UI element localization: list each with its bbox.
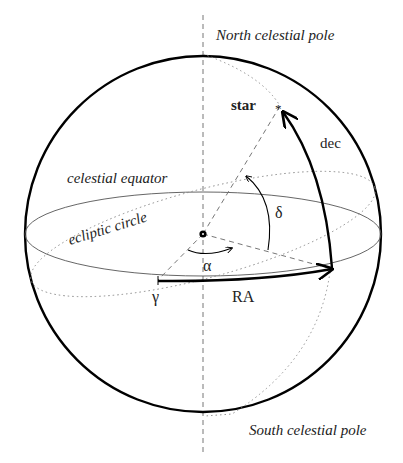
- alpha-label: α: [203, 257, 212, 274]
- star-meridian-lower: [205, 272, 330, 416]
- star-marker-icon: *: [275, 101, 282, 116]
- ra-label: RA: [232, 288, 255, 305]
- south-pole-label: South celestial pole: [249, 422, 367, 438]
- gamma-label: γ: [151, 288, 159, 306]
- celestial-sphere-diagram: * North celestial pole South celestial p…: [0, 0, 403, 463]
- alpha-angle-arc: [188, 248, 232, 254]
- delta-angle-arc: [246, 176, 270, 250]
- delta-label: δ: [275, 204, 283, 221]
- center-to-gamma-line: [158, 234, 203, 280]
- earth-center-inner: [202, 233, 204, 235]
- north-pole-label: North celestial pole: [215, 27, 335, 43]
- dec-label: dec: [320, 135, 341, 151]
- star-label: star: [231, 97, 256, 113]
- ecliptic-circle-label: ecliptic circle: [66, 209, 149, 248]
- celestial-equator-label: celestial equator: [67, 170, 168, 186]
